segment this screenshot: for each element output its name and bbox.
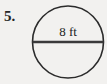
geometry-figure: 5. 8 ft [0, 0, 107, 84]
circle-diagram [0, 0, 107, 84]
dimension-label: 8 ft [52, 25, 84, 39]
